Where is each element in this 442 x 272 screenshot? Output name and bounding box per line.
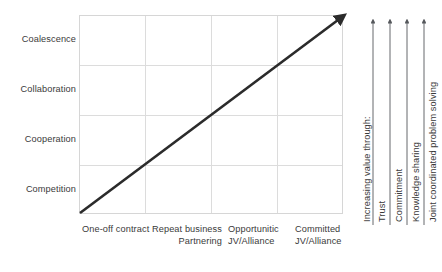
value-arrow-label-commitment: Commitment xyxy=(394,169,404,222)
value-arrow-label-knowledge-sharing: Knowledge sharing xyxy=(411,142,421,222)
value-arrow-label-joint-problem-solving: Joint coordinated problem solving xyxy=(428,82,438,222)
y-axis-label-coalescence: Coalescence xyxy=(22,34,76,44)
x-axis-label-line2: JV/Alliance xyxy=(228,236,279,248)
x-axis-label-line2: JV/Alliance xyxy=(295,236,342,248)
x-axis-label-repeat-business-partnering: Repeat business Partnering xyxy=(152,224,222,247)
x-axis-label-one-off-contract: One-off contract xyxy=(82,224,149,236)
y-axis-label-competition: Competition xyxy=(26,184,76,194)
value-arrow-label-trust: Trust xyxy=(377,201,387,222)
gridline-horizontal xyxy=(80,165,342,166)
x-axis-label-line2: Partnering xyxy=(152,236,222,248)
increasing-value-caption: Increasing value through: xyxy=(362,116,372,222)
y-axis-label-collaboration: Collaboration xyxy=(21,84,76,94)
gridline-horizontal xyxy=(80,65,342,66)
y-axis-label-cooperation: Cooperation xyxy=(25,134,76,144)
gridline-horizontal xyxy=(80,115,342,116)
x-axis-label-committed-jv-alliance: Committed JV/Alliance xyxy=(295,224,342,247)
x-axis-label-line1: Repeat business xyxy=(152,224,222,234)
plot-area xyxy=(79,15,343,214)
diagram-canvas: Coalescence Collaboration Cooperation Co… xyxy=(0,0,442,272)
x-axis-label-opportunitic-jv-alliance: Opportunitic JV/Alliance xyxy=(228,224,279,247)
x-axis-label-line1: Committed xyxy=(295,224,340,234)
x-axis-label-line1: Opportunitic xyxy=(228,224,279,234)
x-axis-label-line1: One-off contract xyxy=(82,224,149,234)
